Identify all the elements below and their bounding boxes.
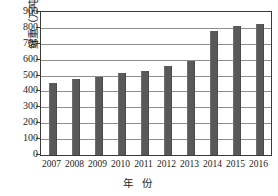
- x-axis-tick-label: 2010: [111, 158, 130, 170]
- bar: [233, 26, 241, 155]
- x-axis-tick-labels: 2007200820092010201120122013201420152016: [40, 158, 272, 172]
- x-axis-tick-label: 2012: [157, 158, 176, 170]
- bar-chart: 鲜重（万吨） 0100200300400500600700800900 2007…: [0, 0, 278, 196]
- x-axis-tick-label: 2007: [42, 158, 61, 170]
- y-axis-tick-mark: [36, 75, 40, 76]
- bar: [141, 71, 149, 155]
- x-axis-tick-label: 2009: [88, 158, 107, 170]
- y-axis-tick-mark: [36, 90, 40, 91]
- x-axis-tick-label: 2016: [249, 158, 268, 170]
- y-axis-tick-mark: [36, 43, 40, 44]
- x-axis-tick-label: 2011: [134, 158, 153, 170]
- y-axis-tick-mark: [36, 154, 40, 155]
- x-axis-tick-label: 2008: [65, 158, 84, 170]
- y-axis-tick-mark: [36, 27, 40, 28]
- bar: [187, 61, 195, 155]
- y-axis-tick-mark: [36, 138, 40, 139]
- plot-area: [40, 11, 272, 156]
- bars-group: [41, 12, 271, 155]
- x-axis-tick-label: 2015: [226, 158, 245, 170]
- y-axis-tick-mark: [36, 122, 40, 123]
- x-axis-tick-label: 2014: [203, 158, 222, 170]
- bar: [118, 73, 126, 155]
- bar: [49, 83, 57, 155]
- x-axis-tick-label: 2013: [180, 158, 199, 170]
- x-axis-title: 年 份: [0, 175, 278, 190]
- bar: [256, 24, 264, 155]
- bar: [72, 79, 80, 155]
- bar: [95, 77, 103, 155]
- bar: [164, 66, 172, 155]
- y-axis-tick-mark: [36, 11, 40, 12]
- y-axis-tick-mark: [36, 106, 40, 107]
- bar: [210, 31, 218, 155]
- y-axis-tick-mark: [36, 59, 40, 60]
- y-axis-tick-labels: 0100200300400500600700800900: [14, 11, 38, 156]
